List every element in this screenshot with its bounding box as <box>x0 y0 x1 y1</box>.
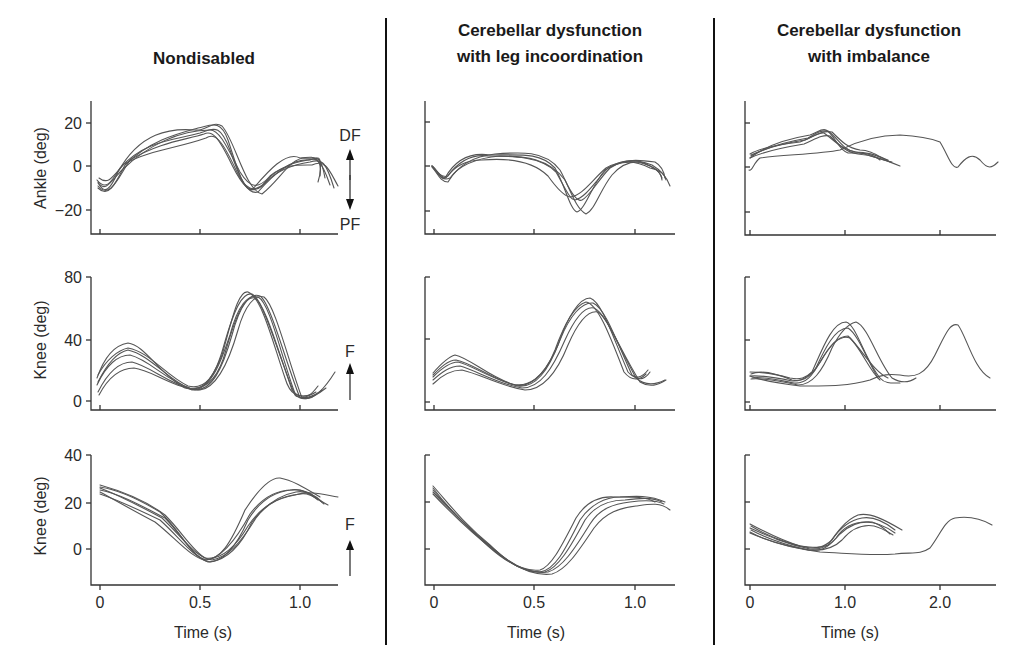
y-tick: 0 <box>73 541 82 558</box>
dorsiflexion-label: DF <box>339 127 361 144</box>
x-tick: 1.0 <box>834 594 856 611</box>
x-tick: 2.0 <box>929 594 951 611</box>
y-tick: 80 <box>64 269 82 286</box>
axis-frame <box>425 277 675 410</box>
panel-incoordination-knee <box>425 277 675 410</box>
y-tick: −20 <box>55 202 82 219</box>
plantarflexion-label: PF <box>340 216 361 233</box>
x-tick: 0 <box>96 594 105 611</box>
panel-nondisabled-hip: 40 20 0 <box>64 447 338 590</box>
panel-imbalance-hip <box>745 455 996 590</box>
panel-nondisabled-knee: 80 40 0 <box>64 269 338 410</box>
y-tick: 40 <box>64 332 82 349</box>
hip-flexion-label: F <box>345 516 355 533</box>
row-label-ankle: Ankle (deg) <box>32 127 49 209</box>
panel-imbalance-knee <box>745 277 996 410</box>
panel-incoordination-ankle <box>425 101 675 234</box>
axis-frame <box>745 455 996 585</box>
y-tick: 0 <box>73 158 82 175</box>
axis-frame <box>91 455 338 585</box>
y-tick: 20 <box>64 495 82 512</box>
column-title-leg-incoordination-line1: Cerebellar dysfunction <box>458 21 642 40</box>
x-tick: 0.5 <box>523 594 545 611</box>
panel-nondisabled-ankle: 20 0 −20 <box>55 101 338 234</box>
y-tick: 0 <box>73 393 82 410</box>
panel-incoordination-hip <box>425 455 675 590</box>
axis-frame <box>91 101 338 234</box>
arrow-up-icon <box>346 540 354 550</box>
y-tick: 20 <box>64 115 82 132</box>
knee-flexion-label: F <box>345 343 355 360</box>
axis-frame <box>745 277 996 410</box>
x-axis-label: Time (s) <box>507 624 565 641</box>
axis-frame <box>745 101 996 235</box>
x-tick: 1.0 <box>624 594 646 611</box>
column-title-nondisabled: Nondisabled <box>153 49 255 68</box>
row-label-knee-2: Knee (deg) <box>32 476 49 555</box>
x-axis-label: Time (s) <box>174 624 232 641</box>
x-tick: 0 <box>430 594 439 611</box>
x-tick: 0.5 <box>189 594 211 611</box>
x-axis-label: Time (s) <box>821 624 879 641</box>
arrow-down-icon <box>346 199 354 210</box>
column-title-leg-incoordination-line2: with leg incoordination <box>456 47 643 66</box>
y-tick: 40 <box>64 447 82 464</box>
arrow-up-icon <box>346 149 354 160</box>
x-tick: 0 <box>746 594 755 611</box>
column-title-imbalance-line1: Cerebellar dysfunction <box>777 21 961 40</box>
arrow-up-icon <box>346 363 354 374</box>
panel-imbalance-ankle <box>745 101 998 235</box>
gait-kinematics-figure: Nondisabled Cerebellar dysfunction with … <box>0 0 1021 659</box>
column-title-imbalance-line2: with imbalance <box>807 47 930 66</box>
row-label-knee-1: Knee (deg) <box>32 300 49 379</box>
x-tick: 1.0 <box>289 594 311 611</box>
